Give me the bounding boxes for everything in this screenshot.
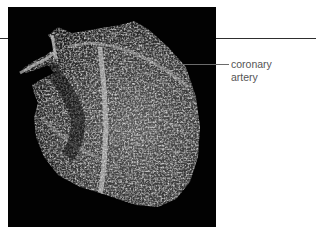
label-line-1: coronary: [231, 58, 272, 71]
label-line-2: artery: [231, 71, 272, 84]
top-rule-right: [216, 38, 316, 39]
label-leader-line: [175, 64, 229, 65]
heart-photo: [8, 7, 216, 227]
coronary-artery-label: coronary artery: [231, 58, 272, 83]
top-rule-left: [0, 38, 8, 39]
heart-cast-image: [8, 7, 216, 227]
